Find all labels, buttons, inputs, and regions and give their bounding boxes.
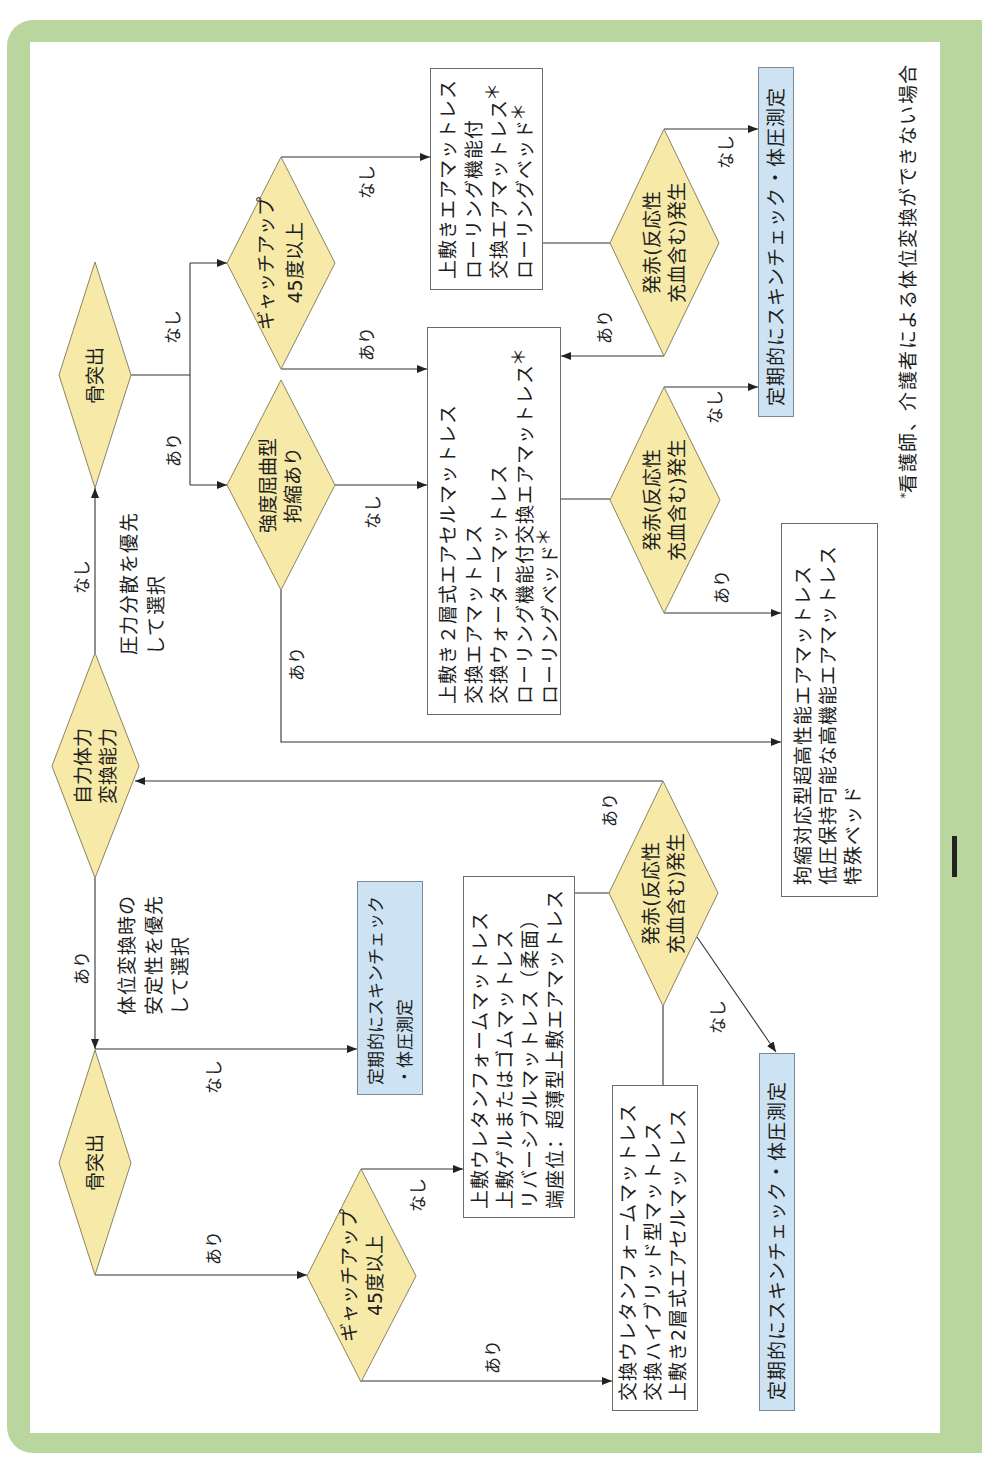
box-line: ローリングベッド＊ [538,328,564,704]
box-line: 端座位：超薄型上敷エアマットレス [543,877,568,1209]
edge-label: あり [594,305,616,349]
note-line: 安定性を優先 [141,895,168,1015]
asterisk-mark: ＊ [482,83,503,101]
footnote-asterisk: * [898,493,912,499]
edge-label: あり [163,428,185,472]
edge-label: あり [599,788,621,832]
box-line-text: 上敷き2層式エアセルマットレス [667,1108,689,1401]
decision-text: 充血含む)発生 [665,439,690,560]
box-line: 上敷ウレタンフォームマットレス [468,877,493,1209]
mattress-box-air-rolling: 上敷きエアマットレス ローリング機能付 交換エアマットレス＊ ローリングベッド＊ [430,68,543,290]
edge-label: なし [715,130,737,174]
box-line-text: ローリングベッド [539,544,561,704]
box-line-text: 低圧保持可能な高機能エアマットレス [817,545,839,885]
note-pressure-priority: 圧力分散を優先 して選択 [116,512,170,656]
note-line: して選択 [167,895,194,1015]
edge-label: あり [203,1226,225,1270]
box-line: ローリングベッド＊ [513,69,539,279]
edge-label: なし [162,305,184,349]
action-text: 定期的にスキンチェック・体圧測定 [759,68,793,406]
box-line: 拘縮対応型超高性能エアマットレス [791,524,816,885]
box-line-text: 上敷き２層式エアセルマットレス [437,404,459,704]
box-line-text: 端座位：超薄型上敷エアマットレス [544,889,566,1209]
mattress-box-replacement: 交換ウレタンフォームマットレス 交換ハイブリッド型マットレス 上敷き2層式エアセ… [612,1085,698,1411]
action-text: 定期的にスキンチェック [362,882,391,1085]
box-line: 上敷き2層式エアセルマットレス [666,1086,691,1401]
decision-text: 充血含む)発生 [664,833,689,954]
footnote-text: 看護師、介護者による体位変換ができない場合 [897,63,919,493]
box-line-text: ローリング機能付 [463,119,485,279]
decision-text: 変換能力 [96,728,121,804]
box-line-text: 交換ウォーターマットレス [488,464,510,704]
mattress-box-topper: 上敷ウレタンフォームマットレス 上敷ゲルまたはゴムマットレス リバーシブルマット… [463,876,575,1218]
decision-text: 強度屈曲型 [256,438,281,533]
box-line-text: 交換ウレタンフォームマットレス [617,1103,639,1401]
action-box-check-upper: 定期的にスキンチェック・体圧測定 [758,67,794,417]
edge-label: あり [711,565,733,609]
decision-redness-c: 発赤(反応性 充血含む)発生 [609,781,718,1006]
box-line: 交換エアマットレス＊ [487,69,513,279]
decision-bony-lower: 骨突出 [59,1050,131,1275]
decision-text: ギャッチアップ [336,1209,362,1342]
footnote: *看護師、介護者による体位変換ができない場合 [897,63,922,593]
box-line: 特殊ベッド [841,524,866,885]
note-line: して選択 [143,512,170,656]
decision-text: 充血含む)発生 [665,182,690,303]
box-line-text: 上敷ゲルまたはゴムマットレス [494,929,516,1209]
box-line: 上敷き２層式エアセルマットレス [436,328,462,704]
edge-label: なし [203,1055,225,1099]
decision-text: 発赤(反応性 [639,842,664,944]
mattress-box-air-cell: 上敷き２層式エアセルマットレス 交換エアマットレス 交換ウォーターマットレス ロ… [427,327,561,715]
decision-gatch-lower: ギャッチアップ 45度以上 [307,1169,416,1382]
action-text: ・体圧測定 [391,882,420,1085]
asterisk-mark: ＊ [533,528,554,546]
box-line: ローリング機能付交換エアマットレス＊ [513,328,539,704]
box-line: 交換ハイブリッド型マットレス [641,1086,666,1401]
decision-text: 発赤(反応性 [640,449,665,551]
decision-text: 拘縮あり [281,447,306,523]
box-line-text: リバーシブルマットレス（柔面） [519,909,541,1209]
note-stability-priority: 体位変換時の 安定性を優先 して選択 [114,895,194,1015]
box-line: 交換エアマットレス [462,328,488,704]
decision-mobility: 自力体力 変換能力 [52,653,139,878]
decision-bony-upper: 骨突出 [59,262,131,488]
asterisk-mark: ＊ [508,348,529,366]
box-line-text: 上敷ウレタンフォームマットレス [469,911,491,1209]
box-line-text: ローリングベッド [514,119,536,279]
note-line: 体位変換時の [114,895,141,1015]
decision-redness-a: 発赤(反応性 充血含む)発生 [610,129,720,356]
box-line: 上敷ゲルまたはゴムマットレス [493,877,518,1209]
box-line-text: 交換エアマットレス [463,524,485,704]
action-box-check-lower: 定期的にスキンチェック・体圧測定 [759,1053,795,1411]
edge-label: なし [704,385,726,429]
decision-text: 45度以上 [281,222,310,303]
box-line-text: 交換ハイブリッド型マットレス [642,1121,664,1401]
box-line-text: 拘縮対応型超高性能エアマットレス [792,565,814,885]
edge-label: なし [71,555,93,599]
action-box-check-middle: 定期的にスキンチェック ・体圧測定 [357,881,423,1095]
decision-text: 骨突出 [83,1134,108,1191]
decision-gatch-upper: ギャッチアップ 45度以上 [227,157,335,369]
box-line: 上敷きエアマットレス [436,69,462,279]
box-line: 低圧保持可能な高機能エアマットレス [816,524,841,885]
box-line: 交換ウォーターマットレス [487,328,513,704]
decision-text: 45度以上 [362,1235,388,1316]
mattress-box-contracture-special: 拘縮対応型超高性能エアマットレス 低圧保持可能な高機能エアマットレス 特殊ベッド [781,523,878,897]
edge-label: なし [407,1173,429,1217]
edge-label: あり [482,1335,504,1379]
edge-label: なし [707,995,729,1039]
edge-label: なし [362,490,384,534]
box-line: 交換ウレタンフォームマットレス [616,1086,641,1401]
box-line-text: 上敷きエアマットレス [437,79,459,279]
decision-text: 自力体力 [71,728,96,804]
decision-contracture: 強度屈曲型 拘縮あり [227,380,335,590]
box-line-text: 特殊ベッド [842,785,864,885]
edge-label: あり [286,642,308,686]
box-line: リバーシブルマットレス（柔面） [518,877,543,1209]
box-line-text: 交換エアマットレス [488,99,510,279]
decision-text: ギャッチアップ [252,197,281,330]
note-line: 圧力分散を優先 [116,512,143,656]
edge-label: なし [356,160,378,204]
decision-text: 発赤(反応性 [640,191,665,293]
